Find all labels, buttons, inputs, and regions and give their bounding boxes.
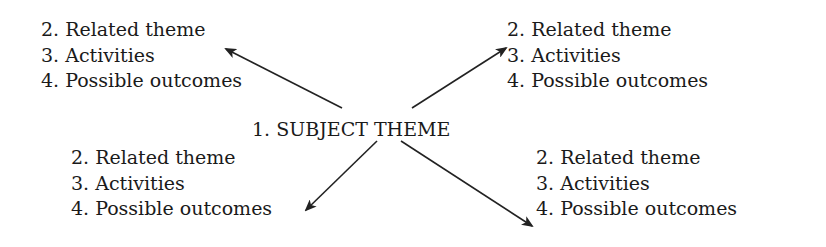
- related-theme-label: 2. Related theme: [536, 145, 737, 171]
- block-bottom-right: 2. Related theme 3. Activities 4. Possib…: [536, 145, 737, 222]
- arrow-top-right: [412, 48, 506, 108]
- activities-label: 3. Activities: [536, 171, 737, 197]
- possible-outcomes-label: 4. Possible outcomes: [507, 68, 708, 94]
- arrow-bottom-left: [306, 141, 377, 210]
- arrow-bottom-right: [401, 141, 532, 226]
- related-theme-label: 2. Related theme: [507, 17, 708, 43]
- block-top-left: 2. Related theme 3. Activities 4. Possib…: [41, 17, 242, 94]
- arrow-top-left: [226, 49, 342, 108]
- possible-outcomes-label: 4. Possible outcomes: [41, 68, 242, 94]
- activities-label: 3. Activities: [41, 43, 242, 69]
- activities-label: 3. Activities: [507, 43, 708, 69]
- activities-label: 3. Activities: [71, 171, 272, 197]
- block-bottom-left: 2. Related theme 3. Activities 4. Possib…: [71, 145, 272, 222]
- possible-outcomes-label: 4. Possible outcomes: [536, 196, 737, 222]
- subject-theme-label: 1. SUBJECT THEME: [252, 118, 450, 140]
- related-theme-label: 2. Related theme: [41, 17, 242, 43]
- related-theme-label: 2. Related theme: [71, 145, 272, 171]
- possible-outcomes-label: 4. Possible outcomes: [71, 196, 272, 222]
- block-top-right: 2. Related theme 3. Activities 4. Possib…: [507, 17, 708, 94]
